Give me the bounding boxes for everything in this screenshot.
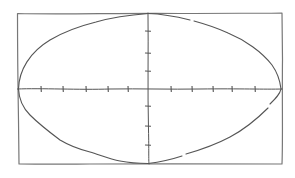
- horizontal-axis: [18, 89, 283, 90]
- ellipse-diagram: [0, 0, 295, 178]
